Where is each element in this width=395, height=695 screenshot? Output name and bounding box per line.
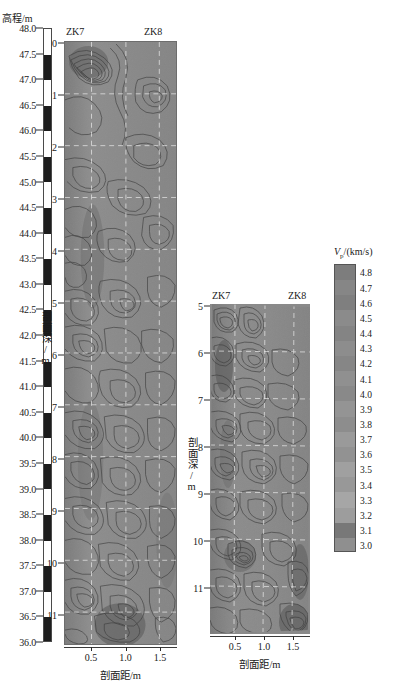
colorbar-swatch [335,326,355,341]
depth-tick-mark [58,615,64,616]
distance-tick-mark [235,636,236,640]
colorbar-tick-label: 3.4 [360,481,372,491]
elevation-tick-mark [36,53,43,54]
elevation-tick-mark [36,462,43,463]
tomogram-image-right[interactable] [210,304,310,634]
elevation-scale-segment [44,566,51,592]
elevation-tick-label: 45.5 [19,150,36,161]
distance-tick-mark [126,647,127,651]
elevation-scale-segment [44,234,51,260]
elevation-tick-label: 39.0 [19,483,36,494]
elevation-scale-segment [44,464,51,490]
elevation-tick-label: 36.0 [19,637,36,648]
colorbar-title-unit: /(km/s) [344,246,373,257]
colorbar-swatch [335,523,355,538]
tomogram-panel-right[interactable]: ZK7 ZK8 [200,290,335,666]
elevation-tick-label: 45.0 [19,176,36,187]
figure-canvas: 高程/m 48.047.547.046.546.045.545.044.544.… [0,0,395,695]
elevation-tick-label: 38.5 [19,509,36,520]
depth-tick-mark [204,400,210,401]
elevation-tick-mark [36,155,43,156]
y-axis-caption: 剖面深/m [184,437,199,492]
colorbar-swatch [335,265,355,280]
colorbar-body: 4.84.74.64.54.44.34.24.14.03.93.83.73.63… [332,264,392,552]
elevation-tick-label: 39.5 [19,457,36,468]
elevation-tick-mark [36,79,43,80]
elevation-tick-label: 43.5 [19,253,36,264]
elevation-scale-segment [44,490,51,516]
elevation-tick-mark [36,539,43,540]
colorbar-tick-label: 3.0 [360,541,372,551]
colorbar-tick-label: 3.2 [360,511,372,521]
x-axis-caption: 剖面距/m [100,667,141,682]
colorbar-tick-label: 3.8 [360,420,372,430]
colorbar-tick-label: 3.7 [360,435,372,445]
elevation-tick-mark [36,590,43,591]
colorbar-swatch [335,538,355,552]
tomogram-right-contours [210,304,310,634]
elevation-tick-label: 40.0 [19,432,36,443]
depth-tick-mark [58,199,64,200]
tomogram-panel-left[interactable]: ZK7 ZK8 [56,26,186,666]
elevation-tick-mark [36,642,43,643]
colorbar-swatch [335,508,355,523]
elevation-scale-segment [44,208,51,234]
elevation-tick-label: 44.5 [19,202,36,213]
elevation-tick-mark [36,232,43,233]
elevation-tick-label: 47.0 [19,74,36,85]
elevation-scale-segment [44,515,51,541]
depth-tick-mark [204,447,210,448]
tomogram-left-contours [65,42,176,644]
depth-tick-mark [58,355,64,356]
elevation-tick-mark [36,258,43,259]
distance-tick-label: 1.0 [258,641,271,652]
colorbar-tick-label: 3.9 [360,405,372,415]
colorbar-swatch [335,447,355,462]
distance-tick-label: 1.0 [119,652,132,663]
elevation-tick-label: 46.0 [19,125,36,136]
distance-tick-mark [160,647,161,651]
depth-tick-mark [204,541,210,542]
elevation-tick-mark [36,181,43,182]
colorbar-tick-label: 4.8 [360,268,372,278]
elevation-scale-segment [44,131,51,157]
colorbar-swatch [335,432,355,447]
elevation-scale-segment [44,387,51,413]
elevation-tick-label: 36.5 [19,611,36,622]
elevation-tick-mark [36,565,43,566]
elevation-tick-label: 37.5 [19,560,36,571]
elevation-scale-segment [44,259,51,285]
colorbar-tick-label: 4.0 [360,390,372,400]
depth-tick-mark [58,147,64,148]
colorbar-swatch [335,341,355,356]
panel-right-label-zk7: ZK7 [212,290,230,301]
colorbar-swatch [335,280,355,295]
elevation-tick-mark [36,616,43,617]
colorbar-swatch [335,462,355,477]
elevation-tick-mark [36,386,43,387]
depth-tick-mark [58,95,64,96]
elevation-scale-segment [44,80,51,106]
elevation-tick-mark [36,283,43,284]
elevation-tick-mark [36,488,43,489]
elevation-scale-segment [44,285,51,311]
colorbar-swatch [335,477,355,492]
tomogram-image-left[interactable] [64,41,177,645]
panel-left-label-zk7: ZK7 [66,26,84,37]
elevation-tick-label: 48.0 [19,23,36,34]
elevation-tick-mark [36,130,43,131]
elevation-tick-mark [36,28,43,29]
colorbar-swatch [335,417,355,432]
colorbar-tick-label: 4.7 [360,284,372,294]
colorbar-swatches [334,264,356,552]
depth-tick-mark [204,353,210,354]
colorbar-swatch [335,356,355,371]
elevation-scale-segment [44,106,51,132]
elevation-tick-label: 43.0 [19,278,36,289]
colorbar-swatch [335,371,355,386]
depth-tick-mark [58,459,64,460]
colorbar-tick-label: 3.1 [360,526,372,536]
colorbar-tick-label: 3.5 [360,465,372,475]
depth-tick-mark [204,306,210,307]
distance-tick-label: 1.5 [287,641,300,652]
